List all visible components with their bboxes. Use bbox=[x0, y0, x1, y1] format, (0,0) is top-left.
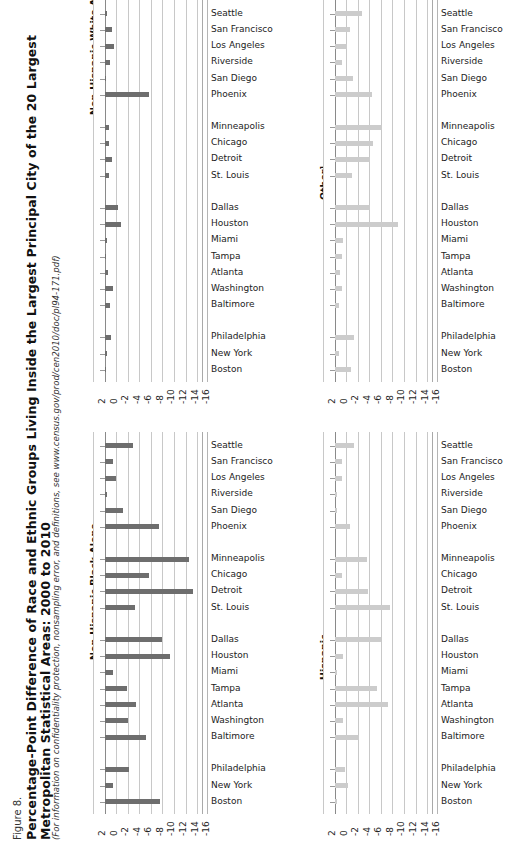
city-label-new-york: New York bbox=[441, 348, 482, 358]
plot-area bbox=[323, 0, 433, 382]
city-label-st-louis: St. Louis bbox=[211, 170, 249, 180]
axis-label--10: -10 bbox=[396, 821, 406, 836]
gridline--12 bbox=[174, 432, 175, 814]
city-label-phoenix: Phoenix bbox=[441, 521, 477, 531]
city-label-los-angeles: Los Angeles bbox=[211, 40, 265, 50]
city-label-philadelphia: Philadelphia bbox=[211, 331, 266, 341]
city-label-detroit: Detroit bbox=[441, 153, 472, 163]
city-label-washington: Washington bbox=[211, 715, 264, 725]
city-label-chicago: Chicago bbox=[441, 569, 477, 579]
axis-label--6: -6 bbox=[143, 395, 153, 404]
bar-boston bbox=[335, 367, 351, 372]
bar-phoenix bbox=[105, 524, 159, 529]
bar-seattle bbox=[335, 11, 362, 16]
city-label-philadelphia: Philadelphia bbox=[441, 331, 496, 341]
axis-label--4: -4 bbox=[362, 827, 372, 836]
axis-label--16: -16 bbox=[201, 389, 211, 404]
bar-san-francisco bbox=[105, 27, 113, 32]
gridline--16 bbox=[197, 0, 198, 382]
bar-minneapolis bbox=[335, 125, 382, 130]
bar-detroit bbox=[335, 589, 368, 594]
bar-tampa bbox=[105, 254, 106, 259]
bar-tampa bbox=[105, 686, 127, 691]
city-label-san-francisco: San Francisco bbox=[441, 24, 503, 34]
bar-houston bbox=[335, 222, 399, 227]
bar-philadelphia bbox=[335, 767, 345, 772]
gridline--14 bbox=[186, 0, 187, 382]
city-label-atlanta: Atlanta bbox=[211, 699, 243, 709]
city-label-atlanta: Atlanta bbox=[211, 267, 243, 277]
city-label-detroit: Detroit bbox=[211, 153, 242, 163]
gridline--12 bbox=[404, 0, 405, 382]
label-column-rule bbox=[437, 432, 438, 814]
city-label-san-francisco: San Francisco bbox=[211, 24, 273, 34]
city-label-tampa: Tampa bbox=[211, 251, 241, 261]
city-label-minneapolis: Minneapolis bbox=[441, 553, 495, 563]
city-label-boston: Boston bbox=[441, 796, 472, 806]
figure-title-block: Figure 8. Percentage-Point Difference of… bbox=[0, 0, 55, 847]
gridline--16 bbox=[427, 0, 428, 382]
city-label-seattle: Seattle bbox=[441, 8, 473, 18]
axis-label--6: -6 bbox=[373, 395, 383, 404]
city-label-riverside: Riverside bbox=[211, 488, 253, 498]
city-label-seattle: Seattle bbox=[211, 440, 243, 450]
figure-number: Figure 8. bbox=[12, 797, 23, 840]
bar-san-francisco bbox=[335, 459, 342, 464]
city-label-baltimore: Baltimore bbox=[211, 299, 255, 309]
gridline--10 bbox=[392, 432, 393, 814]
axis-label--12: -12 bbox=[178, 389, 188, 404]
city-label-dallas: Dallas bbox=[211, 634, 239, 644]
bar-houston bbox=[335, 654, 344, 659]
axis-label-0: 0 bbox=[109, 398, 119, 404]
bar-baltimore bbox=[105, 303, 111, 308]
bar-chicago bbox=[105, 573, 150, 578]
bar-miami bbox=[105, 670, 113, 675]
axis-label--8: -8 bbox=[155, 827, 165, 836]
gridline--2 bbox=[346, 432, 347, 814]
axis-label-0: 0 bbox=[339, 398, 349, 404]
bar-new-york bbox=[105, 351, 107, 356]
bar-houston bbox=[105, 222, 122, 227]
city-label-dallas: Dallas bbox=[441, 202, 469, 212]
axis-label-0: 0 bbox=[339, 830, 349, 836]
bar-dallas bbox=[335, 205, 371, 210]
bar-philadelphia bbox=[105, 335, 111, 340]
bar-miami bbox=[335, 238, 343, 243]
bar-boston bbox=[105, 367, 107, 372]
gridline--12 bbox=[174, 0, 175, 382]
bar-detroit bbox=[105, 589, 193, 594]
bar-seattle bbox=[105, 11, 107, 16]
bar-washington bbox=[105, 718, 128, 723]
city-label-phoenix: Phoenix bbox=[211, 89, 247, 99]
bar-detroit bbox=[105, 157, 112, 162]
city-label-san-francisco: San Francisco bbox=[441, 456, 503, 466]
city-label-column: SeattleSan FranciscoLos AngelesRiverside… bbox=[211, 432, 295, 814]
gridline--2 bbox=[346, 0, 347, 382]
bar-san-diego bbox=[335, 508, 338, 513]
bar-boston bbox=[335, 799, 337, 804]
figure-title-line-1: Percentage-Point Difference of Race and … bbox=[24, 35, 39, 840]
city-label-detroit: Detroit bbox=[441, 585, 472, 595]
city-label-chicago: Chicago bbox=[211, 137, 247, 147]
axis-label--16: -16 bbox=[431, 821, 441, 836]
gridline-2 bbox=[93, 432, 94, 814]
axis-label--8: -8 bbox=[385, 827, 395, 836]
axis-label--16: -16 bbox=[431, 389, 441, 404]
city-label-riverside: Riverside bbox=[211, 56, 253, 66]
gridline--14 bbox=[416, 0, 417, 382]
axis-label--10: -10 bbox=[166, 389, 176, 404]
bar-new-york bbox=[335, 351, 339, 356]
label-column-rule bbox=[207, 0, 208, 382]
bar-seattle bbox=[105, 443, 133, 448]
bar-st-louis bbox=[105, 605, 136, 610]
city-label-philadelphia: Philadelphia bbox=[211, 763, 266, 773]
city-label-baltimore: Baltimore bbox=[441, 299, 485, 309]
axis-label--6: -6 bbox=[143, 827, 153, 836]
city-label-seattle: Seattle bbox=[441, 440, 473, 450]
city-label-dallas: Dallas bbox=[211, 202, 239, 212]
city-label-baltimore: Baltimore bbox=[211, 731, 255, 741]
bar-riverside bbox=[335, 60, 342, 65]
city-label-atlanta: Atlanta bbox=[441, 699, 473, 709]
bar-san-francisco bbox=[105, 459, 113, 464]
bar-detroit bbox=[335, 157, 371, 162]
